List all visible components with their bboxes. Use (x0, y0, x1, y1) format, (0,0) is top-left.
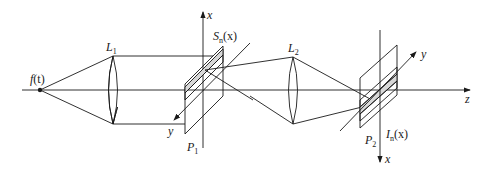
label-source: f(t) (30, 73, 45, 85)
optical-system-diagram: f(t) L1 x Sn(x) y P1 L2 y z In(x) P2 x (0, 0, 487, 174)
y-axis-p2 (340, 52, 416, 131)
ray-in-lower-l2 (250, 96, 293, 124)
ray-upper-source (40, 56, 113, 90)
point-source-dot (38, 88, 42, 92)
label-axis-y-left: y (168, 125, 173, 137)
diagram-drawing (0, 0, 487, 174)
label-axis-z: z (465, 93, 470, 105)
label-plane-p1: P1 (187, 141, 198, 156)
label-lens-l2: L2 (288, 42, 299, 57)
y-axis-p1 (174, 43, 250, 120)
ray-diffracted-lower (205, 70, 253, 100)
label-plane-p2: P2 (365, 134, 376, 149)
lens-l2-left (289, 57, 294, 124)
slit-strip-p2-1 (360, 74, 397, 114)
ray-lower-source (40, 90, 113, 124)
label-lens-l1: L1 (106, 41, 117, 56)
lens-l2-right (293, 57, 298, 124)
label-intensity: In(x) (386, 128, 408, 143)
label-axis-x-bottom: x (385, 153, 390, 165)
label-axis-x-top: x (207, 9, 212, 21)
slit-strip-p2-3 (360, 81, 397, 121)
label-axis-y-right: y (421, 48, 426, 60)
label-slit-function: Sn(x) (213, 30, 237, 45)
ray-converge-lower (293, 107, 362, 124)
